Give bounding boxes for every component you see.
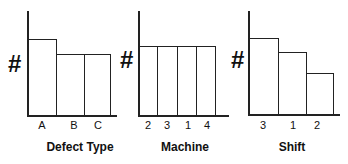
tick-label: 2 <box>307 120 327 131</box>
bar-shift-3 <box>249 38 279 115</box>
bar-shift-2 <box>306 73 334 115</box>
tick-label: 3 <box>253 120 273 131</box>
y-axis-label: # <box>231 48 244 72</box>
x-axis-title: Shift <box>262 140 322 154</box>
tick-label: 1 <box>283 120 303 131</box>
chart-shift: # 3 1 2 Shift <box>0 0 348 164</box>
bar-shift-1 <box>278 52 307 115</box>
